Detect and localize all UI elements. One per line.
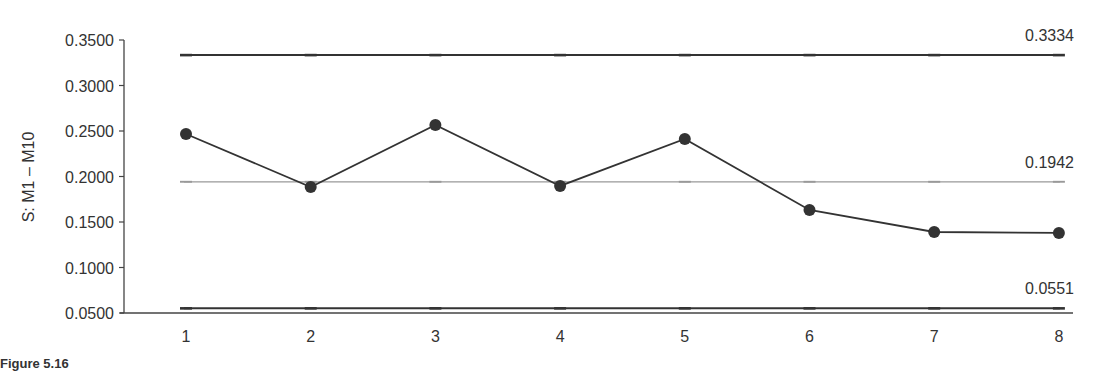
y-tick-label: 0.2000 <box>65 169 114 186</box>
y-tick-label: 0.1500 <box>65 214 114 231</box>
x-tick-label: 4 <box>556 328 565 345</box>
x-tick-label: 3 <box>431 328 440 345</box>
control-limits: 0.33340.19420.0551 <box>180 27 1074 308</box>
series-line <box>186 125 1059 233</box>
y-axis-label: S: M1 – M10 <box>20 132 37 223</box>
data-series <box>180 119 1065 239</box>
data-point <box>1053 227 1065 239</box>
data-point <box>679 133 691 145</box>
x-tick-label: 1 <box>182 328 191 345</box>
y-tick-label: 0.3000 <box>65 78 114 95</box>
lcl-line-label: 0.0551 <box>1025 280 1074 297</box>
x-tick-label: 5 <box>680 328 689 345</box>
y-tick-label: 0.3500 <box>65 32 114 49</box>
data-point <box>429 119 441 131</box>
y-tick-label: 0.0500 <box>65 305 114 322</box>
x-tick-label: 8 <box>1054 328 1063 345</box>
y-tick-label: 0.2500 <box>65 123 114 140</box>
data-point <box>554 180 566 192</box>
axes: 0.35000.30000.25000.20000.15000.10000.05… <box>65 32 1073 345</box>
y-tick-label: 0.1000 <box>65 260 114 277</box>
x-tick-label: 2 <box>306 328 315 345</box>
x-tick-label: 6 <box>805 328 814 345</box>
control-chart: 0.35000.30000.25000.20000.15000.10000.05… <box>0 0 1105 384</box>
data-point <box>804 204 816 216</box>
data-point <box>180 128 192 140</box>
center-line-label: 0.1942 <box>1025 154 1074 171</box>
ucl-line-label: 0.3334 <box>1025 27 1074 44</box>
figure-caption: Figure 5.16 <box>0 356 69 371</box>
x-tick-label: 7 <box>930 328 939 345</box>
data-point <box>305 181 317 193</box>
data-point <box>928 226 940 238</box>
